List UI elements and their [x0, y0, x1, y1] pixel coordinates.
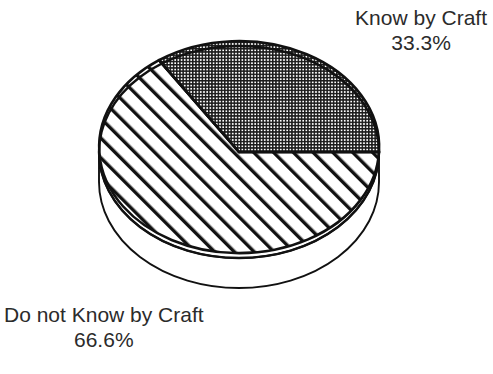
- slice-label-know-by-craft-value: 33.3%: [355, 31, 487, 56]
- slice-label-do-not-know-by-craft-value: 66.6%: [4, 328, 204, 353]
- slice-label-do-not-know-by-craft: Do not Know by Craft 66.6%: [4, 303, 204, 353]
- pie-chart-figure: Know by Craft 33.3% Do not Know by Craft…: [0, 0, 493, 374]
- slice-label-know-by-craft-title: Know by Craft: [355, 6, 487, 31]
- slice-label-do-not-know-by-craft-title: Do not Know by Craft: [4, 303, 204, 328]
- slice-label-know-by-craft: Know by Craft 33.3%: [355, 6, 487, 56]
